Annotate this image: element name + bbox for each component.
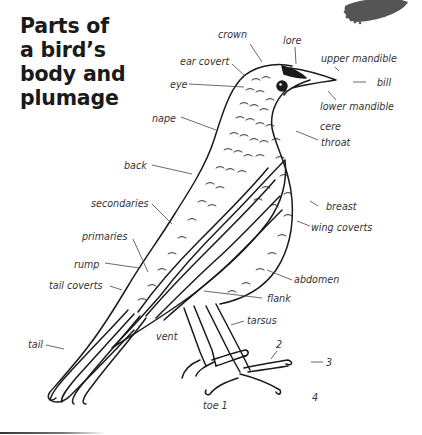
lore-patch	[282, 66, 306, 78]
label-back: back	[124, 160, 147, 171]
label-vent: vent	[156, 331, 177, 342]
feather-blob-icon	[345, 0, 408, 22]
label-toe-4: 4	[312, 392, 318, 403]
label-secondaries: secondaries	[91, 198, 149, 209]
label-nape: nape	[152, 113, 176, 124]
label-rump: rump	[74, 259, 99, 270]
label-wing-coverts: wing coverts	[311, 222, 372, 233]
label-tarsus: tarsus	[247, 315, 277, 326]
bird-tail	[50, 310, 134, 402]
feather-scales	[138, 77, 292, 301]
label-upper-mandible: upper mandible	[321, 53, 397, 64]
label-tail-coverts: tail coverts	[49, 280, 102, 291]
label-abdomen: abdomen	[294, 274, 339, 285]
label-toe-3: 3	[326, 357, 332, 368]
label-toe-1: toe 1	[203, 400, 228, 411]
label-tail: tail	[28, 339, 43, 350]
label-toe-2: 2	[276, 339, 282, 350]
bird-leg-rear	[184, 308, 206, 366]
label-crown: crown	[218, 29, 247, 40]
label-bill: bill	[377, 77, 391, 88]
label-ear-covert: ear covert	[180, 56, 229, 67]
label-lower-mandible: lower mandible	[320, 101, 394, 112]
label-eye: eye	[170, 79, 187, 90]
toe-1	[182, 360, 200, 378]
label-cere: cere	[320, 121, 341, 132]
bird-eye	[277, 81, 287, 91]
label-flank: flank	[267, 293, 291, 304]
label-throat: throat	[321, 137, 350, 148]
label-lore: lore	[283, 35, 301, 46]
label-breast: breast	[326, 201, 357, 212]
toe-4	[240, 374, 281, 394]
bottom-rule	[0, 432, 105, 434]
label-primaries: primaries	[82, 231, 127, 242]
